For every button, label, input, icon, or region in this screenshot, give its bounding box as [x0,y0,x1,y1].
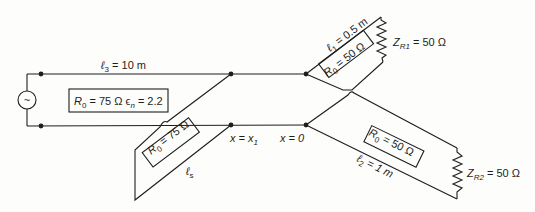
zr2-label: ZR2 = 50 Ω [466,167,520,182]
main-line-params: R0 = 75 Ω ϵn = 2.2 [74,95,163,110]
l2-label: ℓ2 = 1 m [353,152,395,183]
resistor-zr1 [377,17,386,62]
branch-2 [306,92,462,199]
x1-label: x = x1 [229,132,258,147]
resistor-zr2 [453,148,462,199]
circuit-svg: ~ ℓ3 [0,0,535,212]
stub-s-params: R0 = 75 Ω [145,118,193,159]
circuit-diagram: ~ ℓ3 [0,0,535,212]
l3-label: ℓ3 = 10 m [100,59,146,74]
x0-label: x = 0 [279,132,305,144]
svg-text:~: ~ [24,94,30,106]
ac-source-icon: ~ [18,74,36,126]
zr1-label: ZR1 = 50 Ω [392,36,446,51]
ls-label: ℓs [185,165,194,180]
stub-s [135,74,231,200]
